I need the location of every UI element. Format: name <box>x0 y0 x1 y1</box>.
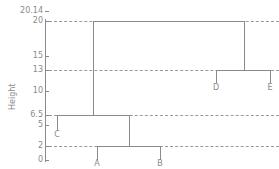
tick-mark-10 <box>45 91 49 92</box>
tick-label-0: 0 <box>2 156 43 164</box>
leaf-label-c: C <box>47 131 67 139</box>
tick-mark-15 <box>45 56 49 57</box>
leaf-label-a: A <box>87 160 107 168</box>
tick-label-2: 2 <box>2 142 43 150</box>
leaf-label-b: B <box>150 160 170 168</box>
gridline-2 <box>49 146 279 147</box>
merge-descender-root-right <box>244 21 245 70</box>
leaf-stem-c <box>57 115 58 131</box>
merge-link-d-e <box>216 70 271 71</box>
tick-mark-0 <box>45 160 49 161</box>
tick-label-15: 15 <box>2 52 43 60</box>
tick-label-20: 20 <box>2 17 43 25</box>
leaf-label-d: D <box>206 84 226 92</box>
leaf-stem-a <box>97 146 98 160</box>
leaf-stem-e <box>270 70 271 83</box>
tick-label-5: 5 <box>2 121 43 129</box>
merge-descender-ab <box>129 115 130 146</box>
leaf-stem-b <box>160 146 161 160</box>
merge-descender-root-left <box>93 21 94 115</box>
tick-label-10: 10 <box>2 87 43 95</box>
tick-label-6-5: 6.5 <box>2 111 43 119</box>
merge-link-root <box>93 21 245 22</box>
dendrogram-chart: Height 20.14 20 15 13 10 6.5 5 2 0 C A B… <box>0 0 279 169</box>
tick-label-13: 13 <box>2 66 43 74</box>
merge-link-c-ab <box>57 115 130 116</box>
merge-link-a-b <box>97 146 161 147</box>
tick-mark-20-14 <box>45 11 49 12</box>
leaf-label-e: E <box>260 84 279 92</box>
tick-label-20-14: 20.14 <box>2 7 43 15</box>
leaf-stem-d <box>216 70 217 83</box>
tick-mark-5 <box>45 125 49 126</box>
